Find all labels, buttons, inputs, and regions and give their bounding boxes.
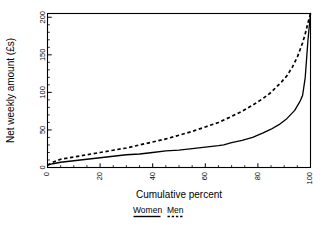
y-axis-tick-label: 150 [38, 49, 47, 62]
x-axis-tick-label: 20 [95, 172, 104, 180]
y-axis-tick-label: 100 [38, 86, 47, 99]
series-line-women [48, 14, 311, 166]
x-axis-tick-label: 0 [42, 172, 51, 176]
x-axis-tick-label: 60 [200, 172, 209, 180]
x-axis-tick-label: 100 [305, 172, 314, 185]
x-axis-tick-label: 40 [148, 172, 157, 180]
net-weekly-amount-by-cumulative-percent-chart: 020406080100050100150200Cumulative perce… [0, 0, 333, 226]
series-line-men [48, 14, 311, 166]
x-axis-tick-label: 80 [253, 172, 262, 180]
y-axis-tick-label: 0 [38, 165, 47, 169]
x-axis-title: Cumulative percent [136, 189, 222, 200]
legend-label-women: Women [133, 205, 162, 215]
y-axis-tick-label: 200 [38, 11, 47, 24]
y-axis-title: Net weekly amount (£s) [5, 38, 16, 143]
chart-figure: 020406080100050100150200Cumulative perce… [0, 0, 333, 226]
y-axis-tick-label: 50 [38, 126, 47, 134]
legend-label-men: Men [167, 205, 184, 215]
plot-frame [48, 14, 311, 168]
